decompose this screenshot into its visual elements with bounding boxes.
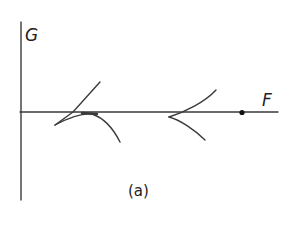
left-cusp-thick-segment: [82, 113, 97, 114]
right-cusp-lower-branch: [169, 117, 205, 140]
diagram-svg: [0, 0, 300, 226]
fixed-point-dot: [239, 110, 244, 115]
right-cusp-upper-branch: [169, 90, 216, 117]
left-cusp-straight-branch: [55, 82, 100, 125]
y-axis-label: G: [25, 25, 38, 45]
figure-canvas: G F (a): [0, 0, 300, 226]
x-axis-label: F: [262, 90, 272, 110]
figure-caption: (a): [128, 182, 149, 200]
